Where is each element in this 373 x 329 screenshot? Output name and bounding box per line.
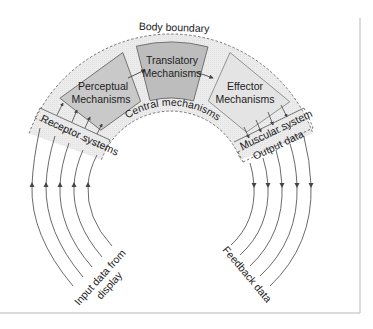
perceptual-label-line2: Mechanisms bbox=[72, 93, 131, 105]
perceptual-label-line1: Perceptual bbox=[78, 80, 128, 92]
translatory-label-line1: Translatory bbox=[146, 54, 199, 66]
feedback-arrowheads bbox=[252, 183, 314, 188]
translatory-label-line2: Mechanisms bbox=[143, 67, 202, 79]
human-machine-model-diagram: Receptor systems Muscular system Output … bbox=[0, 0, 373, 329]
feedback-data-label: Feedback data bbox=[220, 244, 274, 305]
body-boundary-label: Body boundary bbox=[139, 20, 211, 34]
effector-label-line2: Mechanisms bbox=[216, 93, 275, 105]
effector-label-line1: Effector bbox=[227, 80, 263, 92]
input-arrowheads bbox=[30, 182, 91, 187]
